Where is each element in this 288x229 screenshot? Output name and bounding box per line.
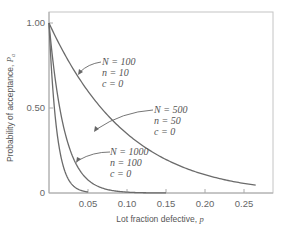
svg-text:N = 1000: N = 1000 [109, 146, 148, 157]
y-tick-label: 0.50 [27, 102, 46, 113]
x-tick-label: 0.20 [196, 198, 215, 209]
x-tick-label: 0.10 [118, 198, 137, 209]
svg-text:n = 100: n = 100 [110, 157, 142, 168]
arrowheads [76, 69, 99, 163]
svg-text:n = 50: n = 50 [154, 115, 181, 126]
oc-curve-n10 [49, 23, 256, 185]
svg-text:n = 10: n = 10 [102, 67, 129, 78]
annotation-n500: N = 500 n = 50 c = 0 [153, 104, 187, 137]
arrowhead-icon [76, 157, 81, 163]
svg-text:c = 0: c = 0 [110, 168, 131, 179]
x-tick-label: 0.25 [235, 198, 254, 209]
oc-curves [49, 23, 256, 193]
svg-text:N = 500: N = 500 [153, 104, 187, 115]
annotation-n100: N = 100 n = 10 c = 0 [101, 56, 135, 89]
svg-text:c = 0: c = 0 [102, 78, 123, 89]
x-axis-title: Lot fraction defective, p [116, 214, 203, 224]
arrowhead-icon [94, 126, 99, 132]
annotation-n1000: N = 1000 n = 100 c = 0 [109, 146, 148, 179]
svg-text:c = 0: c = 0 [154, 126, 175, 137]
oc-curve-n50 [49, 23, 166, 193]
oc-curve-n100 [49, 23, 88, 192]
y-tick-label: 0 [40, 187, 45, 198]
svg-text:N = 100: N = 100 [101, 56, 135, 67]
plot-frame [49, 12, 273, 193]
y-tick-label: 1.00 [27, 17, 46, 28]
y-axis-title: Probability of acceptance, Pa [5, 54, 16, 162]
arrow-n10 [80, 62, 101, 72]
x-tick-label: 0.15 [157, 198, 176, 209]
oc-curve-chart: 0.05 0.10 0.15 0.20 0.25 0 0.50 1.00 Lot… [0, 0, 288, 229]
arrow-n100 [79, 152, 110, 160]
x-tick-label: 0.05 [79, 198, 98, 209]
